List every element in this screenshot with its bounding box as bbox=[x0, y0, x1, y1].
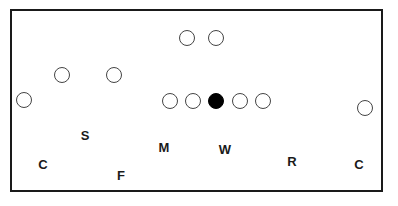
defender-label: F bbox=[117, 169, 125, 182]
defender-label: S bbox=[81, 129, 90, 142]
offense-player-marker bbox=[357, 100, 373, 116]
offense-player-marker bbox=[208, 30, 224, 46]
offense-player-marker bbox=[162, 93, 178, 109]
offense-player-marker bbox=[255, 93, 271, 109]
offense-player-marker bbox=[179, 30, 195, 46]
defender-label: R bbox=[287, 155, 296, 168]
offense-player-marker bbox=[232, 93, 248, 109]
defender-label: C bbox=[38, 158, 47, 171]
offense-player-marker bbox=[16, 92, 32, 108]
center-player-marker bbox=[208, 93, 224, 109]
defender-label: C bbox=[354, 158, 363, 171]
defender-label: W bbox=[219, 143, 231, 156]
offense-player-marker bbox=[54, 67, 70, 83]
offense-player-marker bbox=[106, 67, 122, 83]
offense-player-marker bbox=[185, 93, 201, 109]
defender-label: M bbox=[159, 141, 170, 154]
